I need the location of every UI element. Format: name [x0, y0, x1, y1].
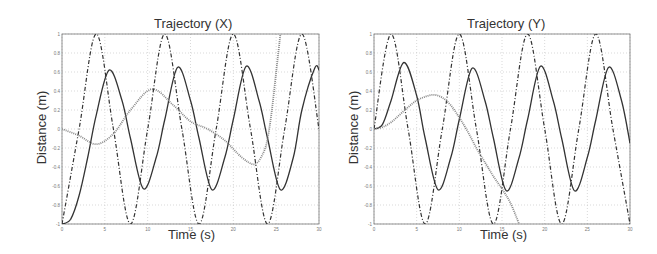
grid — [62, 34, 319, 224]
svg-text:25: 25 — [585, 227, 591, 232]
svg-text:-0.2: -0.2 — [364, 146, 372, 151]
figure-trajectory-y: Trajectory (Y) Distance (m) Time (s) 051… — [328, 0, 657, 254]
svg-text:-1: -1 — [56, 222, 60, 227]
svg-text:0.4: 0.4 — [54, 89, 61, 94]
svg-text:0: 0 — [369, 127, 372, 132]
series-group — [374, 34, 630, 224]
svg-text:-0.6: -0.6 — [52, 184, 60, 189]
svg-text:-0.8: -0.8 — [52, 203, 60, 208]
svg-text:0.8: 0.8 — [366, 51, 373, 56]
axes-frame — [62, 34, 319, 224]
svg-text:-0.2: -0.2 — [52, 146, 60, 151]
svg-text:1: 1 — [369, 32, 372, 37]
figure-trajectory-x: Trajectory (X) Distance (m) Time (s) 051… — [0, 0, 328, 254]
svg-text:5: 5 — [104, 227, 107, 232]
series-group — [62, 34, 319, 224]
svg-text:10: 10 — [145, 227, 151, 232]
plot-area: 051015202530-1-0.8-0.6-0.4-0.200.20.40.6… — [0, 0, 328, 254]
svg-text:0.2: 0.2 — [366, 108, 373, 113]
svg-text:0.6: 0.6 — [366, 70, 373, 75]
svg-text:1: 1 — [57, 32, 60, 37]
svg-text:30: 30 — [627, 227, 633, 232]
svg-text:15: 15 — [499, 227, 505, 232]
series-line-solid — [374, 62, 630, 191]
svg-text:25: 25 — [274, 227, 280, 232]
series-line-dashdot — [374, 34, 630, 224]
grid — [374, 34, 630, 224]
svg-text:20: 20 — [542, 227, 548, 232]
svg-text:20: 20 — [231, 227, 237, 232]
series-line-solid — [62, 66, 319, 224]
series-line-dashdot — [62, 34, 319, 224]
svg-text:0.6: 0.6 — [54, 70, 61, 75]
svg-text:5: 5 — [415, 227, 418, 232]
svg-text:-0.6: -0.6 — [364, 184, 372, 189]
axes-frame — [374, 34, 630, 224]
svg-text:0.2: 0.2 — [54, 108, 61, 113]
svg-text:0.4: 0.4 — [366, 89, 373, 94]
plot-area: 051015202530-1-0.8-0.6-0.4-0.200.20.40.6… — [328, 0, 657, 254]
svg-text:10: 10 — [457, 227, 463, 232]
svg-text:-0.4: -0.4 — [364, 165, 372, 170]
svg-text:-0.8: -0.8 — [364, 203, 372, 208]
svg-text:15: 15 — [188, 227, 194, 232]
svg-text:-1: -1 — [368, 222, 372, 227]
svg-text:0: 0 — [373, 227, 376, 232]
svg-text:30: 30 — [316, 227, 322, 232]
svg-text:-0.4: -0.4 — [52, 165, 60, 170]
svg-text:0: 0 — [57, 127, 60, 132]
svg-text:0.8: 0.8 — [54, 51, 61, 56]
svg-text:0: 0 — [61, 227, 64, 232]
